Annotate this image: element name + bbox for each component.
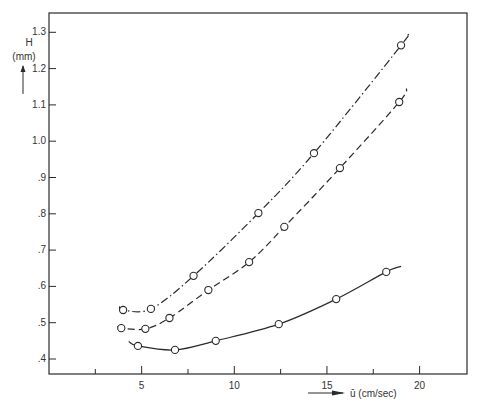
open-circle-marker <box>147 305 154 312</box>
plot-frame <box>49 13 467 374</box>
open-circle-marker <box>142 325 149 332</box>
open-circle-marker <box>134 342 141 349</box>
open-circle-marker <box>310 150 317 157</box>
x-axis-arrow-icon <box>308 391 345 396</box>
open-circle-marker <box>336 164 343 171</box>
y-axis-label-symbol: H <box>25 37 32 48</box>
open-circle-marker <box>118 325 125 332</box>
y-tick-label: 1.3 <box>32 26 46 37</box>
dashed-curve <box>118 89 407 330</box>
open-circle-marker <box>120 306 127 313</box>
x-tick-label: 20 <box>414 380 426 391</box>
open-circle-marker <box>166 314 173 321</box>
open-circle-marker <box>171 346 178 353</box>
x-axis-label: ū (cm/sec) <box>350 388 397 399</box>
dash-dot-curve <box>119 34 409 312</box>
x-tick-label: 15 <box>321 380 333 391</box>
solid-curve <box>129 266 401 350</box>
x-tick-label: 5 <box>139 380 145 391</box>
y-tick-label: .4 <box>38 353 47 364</box>
y-tick-label: 1.2 <box>32 63 46 74</box>
open-circle-marker <box>190 272 197 279</box>
open-circle-marker <box>255 209 262 216</box>
y-tick-label: 1.0 <box>32 135 46 146</box>
open-circle-marker <box>333 296 340 303</box>
open-circle-marker <box>212 337 219 344</box>
open-circle-marker <box>275 321 282 328</box>
y-tick-label: .5 <box>38 317 47 328</box>
y-tick-label: .7 <box>38 244 47 255</box>
y-axis-label-unit: (mm) <box>12 51 35 62</box>
y-tick-label: .6 <box>38 280 47 291</box>
y-axis-ticks: .4.5.6.7.8.91.01.11.21.3 <box>32 26 56 364</box>
y-tick-label: .9 <box>38 172 47 183</box>
y-axis-arrow-icon <box>21 65 26 94</box>
chart-figure: 5101520 .4.5.6.7.8.91.01.11.21.3 H (mm) … <box>0 0 479 411</box>
x-tick-label: 10 <box>229 380 241 391</box>
open-circle-marker <box>281 223 288 230</box>
open-circle-marker <box>246 258 253 265</box>
open-circle-marker <box>396 98 403 105</box>
data-markers <box>118 42 405 354</box>
data-curves <box>118 34 410 350</box>
y-tick-label: 1.1 <box>32 99 46 110</box>
open-circle-marker <box>205 286 212 293</box>
y-tick-label: .8 <box>38 208 47 219</box>
open-circle-marker <box>397 42 404 49</box>
open-circle-marker <box>383 268 390 275</box>
